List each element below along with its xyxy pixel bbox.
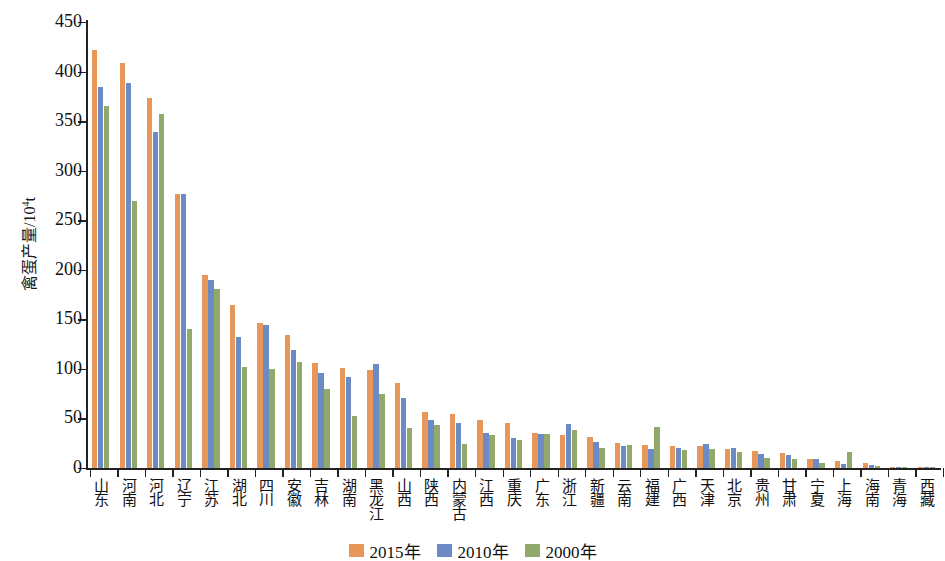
bar-group[interactable] (587, 22, 604, 468)
bar-group[interactable] (505, 22, 522, 468)
bar-group[interactable] (230, 22, 247, 468)
bar[interactable] (709, 449, 714, 468)
legend-item[interactable]: 2000年 (525, 538, 597, 561)
bar[interactable] (532, 433, 537, 468)
bar[interactable] (257, 323, 262, 468)
bar[interactable] (346, 377, 351, 468)
bar-group[interactable] (257, 22, 274, 468)
bar[interactable] (560, 435, 565, 468)
bar-group[interactable] (450, 22, 467, 468)
bar[interactable] (505, 423, 510, 468)
legend-item[interactable]: 2015年 (349, 538, 421, 561)
bar[interactable] (291, 350, 296, 468)
bar[interactable] (340, 368, 345, 468)
bar[interactable] (175, 194, 180, 468)
bar[interactable] (367, 370, 372, 468)
bar-group[interactable] (642, 22, 659, 468)
bar[interactable] (930, 467, 935, 468)
bar[interactable] (312, 363, 317, 468)
bar-group[interactable] (120, 22, 137, 468)
bar[interactable] (428, 420, 433, 468)
bar-group[interactable] (340, 22, 357, 468)
bar[interactable] (621, 446, 626, 468)
bar[interactable] (285, 335, 290, 468)
bar[interactable] (120, 63, 125, 468)
bar[interactable] (847, 452, 852, 468)
bar[interactable] (407, 428, 412, 468)
bar[interactable] (780, 453, 785, 468)
bar[interactable] (395, 383, 400, 468)
bar[interactable] (627, 445, 632, 468)
bar[interactable] (676, 448, 681, 468)
bar-group[interactable] (175, 22, 192, 468)
bar-group[interactable] (615, 22, 632, 468)
bar[interactable] (896, 467, 901, 468)
bar[interactable] (483, 433, 488, 468)
bar[interactable] (132, 201, 137, 468)
bar[interactable] (462, 444, 467, 468)
bar[interactable] (92, 50, 97, 468)
bar-group[interactable] (835, 22, 852, 468)
bar[interactable] (869, 465, 874, 468)
bar-group[interactable] (863, 22, 880, 468)
bar[interactable] (758, 454, 763, 468)
bar-group[interactable] (92, 22, 109, 468)
bar-group[interactable] (752, 22, 769, 468)
bar-group[interactable] (147, 22, 164, 468)
bar[interactable] (511, 438, 516, 468)
bar[interactable] (104, 106, 109, 468)
bar[interactable] (918, 467, 923, 468)
bar-group[interactable] (697, 22, 714, 468)
bar[interactable] (181, 194, 186, 468)
bar[interactable] (187, 329, 192, 468)
bar[interactable] (682, 450, 687, 468)
bar[interactable] (214, 289, 219, 468)
bar[interactable] (648, 449, 653, 468)
bar[interactable] (615, 443, 620, 468)
bar[interactable] (703, 444, 708, 468)
bar[interactable] (517, 440, 522, 468)
bar[interactable] (786, 455, 791, 468)
bar[interactable] (373, 364, 378, 468)
bar[interactable] (654, 427, 659, 468)
bar[interactable] (731, 448, 736, 468)
bar[interactable] (538, 434, 543, 468)
bar[interactable] (379, 394, 384, 468)
bar-group[interactable] (670, 22, 687, 468)
bar[interactable] (835, 461, 840, 468)
bar[interactable] (792, 459, 797, 468)
bar[interactable] (230, 305, 235, 468)
bar[interactable] (875, 466, 880, 468)
bar[interactable] (269, 369, 274, 468)
bar[interactable] (242, 367, 247, 468)
bar[interactable] (147, 98, 152, 468)
bar[interactable] (841, 464, 846, 468)
bar[interactable] (924, 467, 929, 468)
bar[interactable] (202, 275, 207, 468)
bar[interactable] (153, 132, 158, 468)
bar[interactable] (725, 449, 730, 468)
bar-group[interactable] (285, 22, 302, 468)
legend-item[interactable]: 2010年 (437, 538, 509, 561)
bar[interactable] (544, 434, 549, 468)
bar[interactable] (236, 337, 241, 468)
bar[interactable] (599, 448, 604, 468)
bar-group[interactable] (890, 22, 907, 468)
bar[interactable] (890, 467, 895, 468)
bar[interactable] (477, 420, 482, 468)
bar[interactable] (572, 430, 577, 468)
bar[interactable] (263, 325, 268, 468)
bar[interactable] (670, 446, 675, 468)
bar-group[interactable] (367, 22, 384, 468)
bar[interactable] (422, 412, 427, 468)
bar-group[interactable] (395, 22, 412, 468)
bar[interactable] (352, 416, 357, 468)
bar-group[interactable] (422, 22, 439, 468)
bar[interactable] (737, 452, 742, 468)
bar[interactable] (819, 463, 824, 468)
bar[interactable] (159, 114, 164, 468)
bar-group[interactable] (477, 22, 494, 468)
bar[interactable] (764, 458, 769, 468)
bar-group[interactable] (532, 22, 549, 468)
bar[interactable] (450, 414, 455, 469)
